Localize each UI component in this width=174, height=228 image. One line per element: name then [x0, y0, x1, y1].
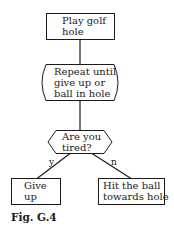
start-label: Play golf hole	[62, 15, 106, 37]
figure-caption: Fig. G.4	[11, 211, 57, 223]
loop-label: Repeat until give up or ball in hole	[54, 66, 116, 99]
no-action-label: Hit the ball towards hole	[103, 180, 169, 202]
yes-branch-label: y	[49, 158, 54, 167]
no-branch-label: n	[111, 158, 117, 167]
decision-label: Are you tired?	[62, 131, 101, 153]
yes-action-label: Give up	[24, 180, 47, 202]
